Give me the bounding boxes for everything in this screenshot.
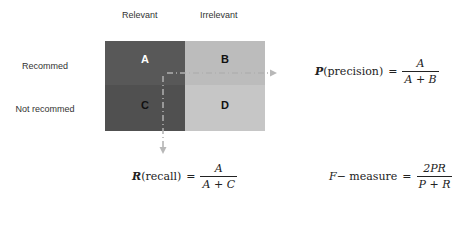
precision-numerator: A [415, 57, 427, 71]
precision-denominator: A + B [402, 71, 438, 86]
recall-fraction: A A + C [200, 162, 237, 191]
f-measure-symbol: F [329, 170, 337, 183]
recall-arrow-icon [160, 76, 167, 154]
recall-numerator: A [213, 162, 225, 176]
recall-symbol: R [132, 170, 141, 183]
recall-denominator: A + C [200, 176, 237, 191]
precision-equals: = [388, 65, 397, 78]
precision-symbol: P [315, 65, 323, 78]
recall-equals: = [186, 170, 195, 183]
f-measure-name: − measure [337, 170, 398, 183]
f-measure-fraction: 2PR P + R [417, 162, 452, 191]
f-measure-denominator: P + R [417, 176, 452, 191]
precision-fraction: A A + B [402, 57, 438, 86]
precision-name: (precision) [323, 65, 383, 78]
f-measure-equals: = [402, 170, 411, 183]
recall-formula: R (recall) = A A + C [132, 162, 237, 191]
recall-name: (recall) [141, 170, 181, 183]
f-measure-numerator: 2PR [421, 162, 448, 176]
precision-arrow-icon [167, 70, 277, 77]
precision-formula: P (precision) = A A + B [315, 57, 439, 86]
f-measure-formula: F − measure = 2PR P + R [329, 162, 452, 191]
